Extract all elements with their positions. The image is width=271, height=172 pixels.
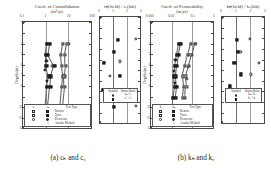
x-tick-label: 0 <box>98 9 100 13</box>
y-tick-mark <box>211 54 213 55</box>
y-tick-mark <box>138 123 140 124</box>
y-tick-mark <box>151 54 153 55</box>
legend-label: kᵥ' / kᵥ <box>245 97 260 101</box>
data-point-marker <box>68 42 71 45</box>
data-point-marker <box>239 73 242 76</box>
data-point-marker <box>45 71 47 74</box>
data-point-marker <box>184 92 186 95</box>
data-point-marker <box>185 86 188 89</box>
y-tick-label: 11 <box>147 116 150 120</box>
data-point-marker <box>63 86 66 89</box>
data-point-marker <box>184 96 187 99</box>
y-tick-mark <box>211 128 213 129</box>
data-point-marker <box>112 105 115 108</box>
y-tick-mark <box>262 28 264 29</box>
legend-consolidation: cᵥcₕTest TypeRestoreTyresPiezoconeAsaoka… <box>24 104 91 128</box>
y-tick-mark <box>89 75 91 76</box>
x-tick-label: 1 <box>44 14 46 18</box>
legend-label: Asaoka Method <box>180 121 211 125</box>
panels-container: Coeff. of Consolidation (m²/yr) 0.111010… <box>0 0 271 150</box>
y-tick-mark <box>138 70 140 71</box>
data-point-marker <box>45 64 48 67</box>
y-tick-mark <box>138 81 140 82</box>
legend-symbol-cell <box>228 97 245 101</box>
legend-marker-icon <box>172 110 175 113</box>
y-tick-mark <box>100 38 102 39</box>
y-tick-mark <box>211 75 213 76</box>
data-point-marker <box>186 77 189 80</box>
y-tick-mark <box>262 113 264 114</box>
x-tick-label: 1 <box>112 9 114 13</box>
panel-coeff-consolidation: Coeff. of Consolidation (m²/yr) 0.111010… <box>22 4 92 129</box>
y-tick-mark <box>151 86 153 87</box>
y-tick-mark <box>100 91 102 92</box>
data-point-marker <box>47 53 50 56</box>
data-point-marker <box>60 64 63 67</box>
y-tick-mark <box>211 65 213 66</box>
data-point-marker <box>64 64 67 67</box>
y-tick-mark <box>211 22 213 23</box>
data-point-marker <box>59 53 62 56</box>
legend-ratio_c: SymbolStrain Ratiocₕ / cᵥcᵥ' / cᵥ <box>103 88 138 104</box>
y-tick-mark <box>222 102 224 103</box>
y-tick-mark <box>100 81 102 82</box>
y-tick-label: 11 <box>19 116 22 120</box>
legend-marker-icon <box>46 118 49 121</box>
plot-area-consolidation: Depth (m) 245678101112 cᵥcₕTest TypeRest… <box>22 21 92 129</box>
data-point-marker <box>180 42 183 45</box>
y-tick-mark <box>138 49 140 50</box>
y-tick-mark <box>138 60 140 61</box>
y-tick-mark <box>23 65 25 66</box>
y-axis-tick-labels-right: 245678101112 <box>143 22 151 128</box>
y-tick-mark <box>89 54 91 55</box>
legend-marker-icon <box>235 98 238 101</box>
unity-reference-line <box>236 17 237 123</box>
y-tick-mark <box>89 22 91 23</box>
y-tick-mark <box>138 113 140 114</box>
x-tick-label: 0.01 <box>168 14 174 18</box>
data-point-marker <box>174 59 177 62</box>
legend-symbol-cell <box>167 121 180 125</box>
caption-a: (a) cₕ and cᵥ <box>50 153 85 162</box>
y-tick-label: 12 <box>147 126 151 130</box>
y-tick-mark <box>262 102 264 103</box>
y-tick-mark <box>222 17 224 18</box>
plot-area-ch-cv: SymbolStrain Ratiocₕ / cᵥcᵥ' / cᵥ <box>99 16 141 124</box>
data-point-marker <box>119 60 122 63</box>
y-tick-mark <box>262 81 264 82</box>
data-point-marker <box>174 96 177 99</box>
y-tick-mark <box>151 97 153 98</box>
figure-root: Coeff. of Consolidation (m²/yr) 0.111010… <box>0 0 271 172</box>
x-tick-label: 3 <box>140 9 142 13</box>
data-point-marker <box>119 74 122 77</box>
y-tick-mark <box>138 91 140 92</box>
figure-captions: (a) cₕ and cᵥ (b) kₕ and kᵥ <box>0 150 271 172</box>
legend-marker-icon <box>235 94 238 97</box>
y-tick-mark <box>138 17 140 18</box>
y-tick-mark <box>151 22 153 23</box>
data-point-marker <box>177 53 180 56</box>
data-point-marker <box>187 65 190 68</box>
legend-symbol-cell <box>27 121 41 125</box>
y-tick-label: 10 <box>19 105 23 109</box>
y-tick-mark <box>222 60 224 61</box>
y-tick-mark <box>100 113 102 114</box>
x-axis-labels-consolidation: 0.1110100 <box>22 14 92 21</box>
x-axis-labels-ch-cv: 0123 <box>99 9 141 16</box>
y-tick-mark <box>23 33 25 34</box>
y-tick-mark <box>211 44 213 45</box>
y-tick-mark <box>100 102 102 103</box>
x-axis-labels-permeability: 0.0010.010.11 <box>150 14 214 21</box>
y-tick-mark <box>100 123 102 124</box>
x-tick-label: 0.1 <box>20 14 25 18</box>
x-tick-label: 1 <box>213 14 215 18</box>
y-tick-mark <box>23 44 25 45</box>
legend-marker-icon <box>32 118 35 121</box>
y-tick-mark <box>222 81 224 82</box>
vertical-gridline <box>250 17 251 123</box>
y-tick-mark <box>262 70 264 71</box>
y-tick-mark <box>211 33 213 34</box>
x-tick-mark <box>264 17 265 19</box>
y-tick-mark <box>138 38 140 39</box>
data-point-marker <box>102 61 105 64</box>
